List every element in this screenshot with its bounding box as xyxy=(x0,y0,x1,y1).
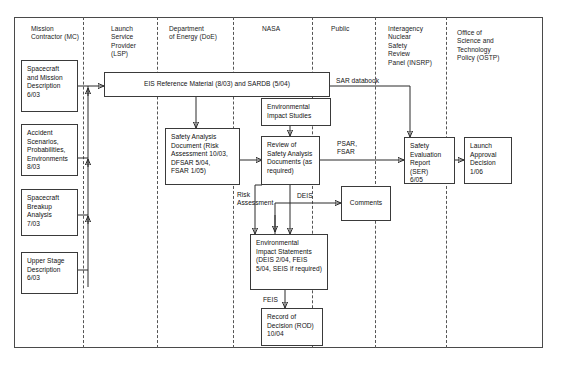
node-accident-scenarios[interactable]: Accident Scenarios, Probabilities, Envir… xyxy=(21,124,78,176)
edge-label-deis: DEIS xyxy=(297,192,313,200)
lane-divider-mc-lsp xyxy=(83,17,84,348)
node-environmental-impact-studies[interactable]: Environmental Impact Studies xyxy=(261,98,331,126)
node-record-of-decision[interactable]: Record of Decision (ROD) 10/04 xyxy=(261,308,323,346)
node-environmental-impact-statements[interactable]: Environmental Impact Statements (DEIS 2/… xyxy=(250,234,328,290)
node-safety-evaluation-report[interactable]: Safety Evaluation Report (SER) 6/05 xyxy=(404,137,455,184)
edge-label-psar-fsar: PSAR, FSAR xyxy=(337,140,357,157)
node-launch-approval-decision[interactable]: Launch Approval Decision 1/06 xyxy=(464,137,512,184)
node-spacecraft-and-mission-description[interactable]: Spacecraft and Mission Description 6/03 xyxy=(21,60,78,112)
lane-header-department-of-energy: Department of Energy (DoE) xyxy=(169,25,231,42)
lane-header-ostp: Office of Science and Technology Policy … xyxy=(457,29,519,63)
lane-header-launch-service-provider: Launch Service Provider (LSP) xyxy=(111,25,159,59)
lane-header-mission-contractor: Mission Contractor (MC) xyxy=(31,25,83,42)
lane-header-nasa: NASA xyxy=(262,25,307,33)
node-safety-analysis-document[interactable]: Safety Analysis Document (Risk Assessmen… xyxy=(165,128,240,185)
edge-label-feis: FEIS xyxy=(263,296,278,304)
node-review-of-safety-analysis-documents[interactable]: Review of Safety Analysis Documents (as … xyxy=(261,136,320,185)
lane-divider-lsp-doe xyxy=(157,17,158,348)
node-upper-stage-description[interactable]: Upper Stage Description 6/03 xyxy=(21,252,78,294)
node-comments[interactable]: Comments xyxy=(341,186,391,221)
node-spacecraft-breakup-analysis[interactable]: Spacecraft Breakup Analysis 7/03 xyxy=(21,189,78,236)
node-eis-reference-material[interactable]: EIS Reference Material (8/03) and SARDB … xyxy=(104,72,330,97)
lane-header-insrp: Interagency Nuclear Safety Review Panel … xyxy=(388,25,446,67)
edge-label-sar-databook: SAR databook xyxy=(336,77,379,85)
lane-divider-public-insrp xyxy=(375,17,376,348)
lane-header-public: Public xyxy=(331,25,373,33)
edge-label-risk-assessment: Risk Assessment xyxy=(237,191,273,208)
swimlane-flowchart: Mission Contractor (MC) Launch Service P… xyxy=(0,0,562,373)
